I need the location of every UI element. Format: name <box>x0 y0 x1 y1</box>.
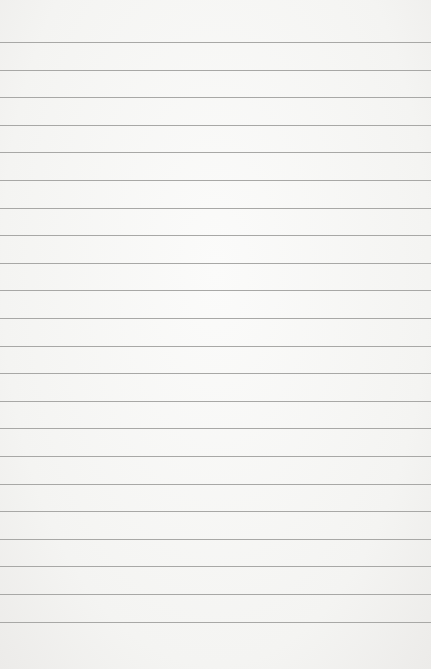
ruled-line <box>0 70 431 71</box>
ruled-line <box>0 97 431 98</box>
ruled-line <box>0 263 431 264</box>
ruled-line <box>0 401 431 402</box>
ruled-line <box>0 208 431 209</box>
ruled-line <box>0 152 431 153</box>
ruled-line <box>0 511 431 512</box>
ruled-line <box>0 235 431 236</box>
ruled-line <box>0 125 431 126</box>
ruled-line <box>0 180 431 181</box>
ruled-line <box>0 318 431 319</box>
ruled-line <box>0 594 431 595</box>
lined-paper <box>0 0 431 669</box>
ruled-line <box>0 539 431 540</box>
ruled-line <box>0 622 431 623</box>
ruled-line <box>0 373 431 374</box>
ruled-line <box>0 42 431 43</box>
ruled-line <box>0 290 431 291</box>
ruled-line <box>0 456 431 457</box>
ruled-line <box>0 428 431 429</box>
ruled-line <box>0 566 431 567</box>
ruled-line <box>0 484 431 485</box>
ruled-line <box>0 346 431 347</box>
